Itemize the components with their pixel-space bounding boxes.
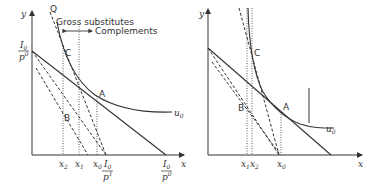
figure-canvas: y x I0 p0 Gross substitutes Complements … — [0, 0, 379, 188]
left-x-axis-label: x — [181, 159, 186, 169]
right-tick-x1: x1 — [241, 159, 250, 170]
svg-text:p0: p0 — [19, 50, 29, 62]
left-budget-line-initial — [32, 51, 166, 155]
svg-text:p0: p0 — [162, 170, 172, 182]
left-y-axis-label: y — [20, 9, 27, 19]
svg-text:I0: I0 — [162, 159, 171, 170]
left-budget-line-new — [32, 51, 106, 155]
left-tick-x2: x2 — [59, 159, 68, 170]
svg-text:I0: I0 — [103, 159, 112, 170]
right-indifference-curve-u0 — [248, 8, 334, 128]
right-x-axis-label: x — [358, 159, 363, 169]
left-point-a: A — [99, 89, 106, 99]
svg-text:p1: p1 — [103, 170, 113, 182]
left-point-b: B — [64, 113, 70, 123]
right-tick-x2: x2 — [250, 159, 259, 170]
right-point-a: A — [283, 102, 290, 112]
left-curve-label-u0: u0 — [174, 108, 184, 119]
left-x-intercept-new-label: I0 p1 — [102, 159, 113, 182]
right-tick-x0: x0 — [277, 159, 286, 170]
left-tick-x1: x1 — [75, 159, 84, 170]
left-x-intercept-initial-label: I0 p0 — [161, 159, 172, 182]
left-tick-x0: x0 — [93, 159, 102, 170]
left-annotation-complements: Complements — [95, 26, 158, 36]
left-panel: y x I0 p0 Gross substitutes Complements … — [18, 4, 186, 182]
right-point-c: C — [254, 48, 260, 58]
right-curve-label-u0: u0 — [326, 124, 336, 135]
left-point-q: Q — [50, 4, 57, 14]
left-y-intercept-label: I0 p0 — [18, 40, 29, 62]
right-compensated-line — [212, 62, 279, 153]
right-panel: y x C A B u0 x1 x2 x0 — [198, 8, 363, 170]
right-y-axis-label: y — [198, 9, 205, 19]
right-point-b: B — [238, 103, 244, 113]
left-point-c: C — [65, 48, 71, 58]
